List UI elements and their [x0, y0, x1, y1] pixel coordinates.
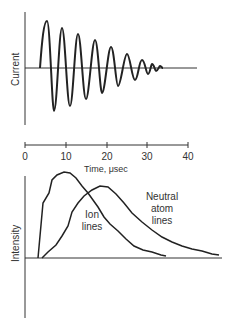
- ion-label-1: Ion: [85, 209, 99, 220]
- ion-label-2: lines: [82, 221, 103, 232]
- current-wave: [40, 21, 163, 111]
- tick-10: 10: [60, 151, 72, 162]
- neutral-label-2: atom: [151, 203, 173, 214]
- ion-lines-curve: [38, 172, 166, 258]
- tick-40: 40: [182, 151, 194, 162]
- tick-0: 0: [22, 151, 28, 162]
- neutral-label-3: lines: [152, 215, 173, 226]
- tick-30: 30: [141, 151, 153, 162]
- figure: Current 0 10 20 30 40 Time, μsec Intensi…: [0, 0, 232, 336]
- current-label: Current: [10, 52, 21, 86]
- neutral-label-1: Neutral: [146, 191, 178, 202]
- time-label: Time, μsec: [84, 164, 128, 174]
- tick-20: 20: [101, 151, 113, 162]
- neutral-atom-lines-curve: [42, 186, 219, 258]
- intensity-label: Intensity: [10, 225, 21, 262]
